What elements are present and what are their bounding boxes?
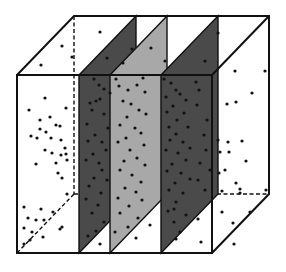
data-point bbox=[30, 230, 33, 233]
data-point bbox=[126, 88, 129, 91]
data-point bbox=[232, 242, 235, 245]
data-point bbox=[173, 181, 176, 184]
data-point bbox=[144, 112, 147, 115]
data-point bbox=[264, 188, 267, 191]
data-point bbox=[118, 168, 121, 171]
data-point bbox=[48, 115, 51, 118]
data-point bbox=[130, 173, 133, 176]
data-point bbox=[39, 207, 42, 210]
data-point bbox=[98, 97, 101, 100]
data-point bbox=[124, 136, 127, 139]
data-point bbox=[171, 104, 174, 107]
data-point bbox=[140, 198, 143, 201]
data-point bbox=[178, 230, 181, 233]
data-point bbox=[92, 77, 95, 80]
data-point bbox=[108, 91, 111, 94]
data-point bbox=[102, 112, 105, 115]
data-point bbox=[51, 210, 54, 213]
data-point bbox=[44, 130, 47, 133]
data-point bbox=[28, 238, 31, 241]
data-point bbox=[92, 176, 95, 179]
data-point bbox=[90, 108, 93, 111]
data-point bbox=[58, 124, 61, 127]
data-point bbox=[34, 218, 37, 221]
data-point bbox=[218, 150, 221, 153]
data-point bbox=[42, 218, 45, 221]
data-point bbox=[234, 181, 237, 184]
data-point bbox=[182, 111, 185, 114]
data-point bbox=[22, 242, 25, 245]
data-point bbox=[102, 220, 105, 223]
separating-planes bbox=[79, 16, 218, 253]
data-point bbox=[64, 106, 67, 109]
data-point bbox=[97, 161, 100, 164]
data-point bbox=[168, 138, 171, 141]
data-point bbox=[104, 148, 107, 151]
data-point bbox=[196, 217, 199, 220]
data-point bbox=[65, 158, 68, 161]
data-point bbox=[220, 189, 223, 192]
data-point bbox=[134, 190, 137, 193]
data-point bbox=[65, 192, 68, 195]
data-point bbox=[127, 204, 130, 207]
data-point bbox=[34, 162, 37, 165]
data-point bbox=[116, 140, 119, 143]
data-point bbox=[105, 56, 108, 59]
data-point bbox=[98, 30, 101, 33]
data-point bbox=[174, 132, 177, 135]
data-point bbox=[116, 196, 119, 199]
data-point bbox=[202, 133, 205, 136]
data-point bbox=[118, 123, 121, 126]
data-point bbox=[164, 95, 167, 98]
data-point bbox=[244, 159, 247, 162]
data-point bbox=[43, 96, 46, 99]
data-point bbox=[60, 176, 63, 179]
data-point bbox=[175, 118, 178, 121]
data-point bbox=[106, 126, 109, 129]
data-point bbox=[121, 61, 124, 64]
data-point bbox=[64, 152, 67, 155]
data-point bbox=[167, 188, 170, 191]
data-point bbox=[176, 151, 179, 154]
data-point bbox=[148, 223, 151, 226]
data-point bbox=[226, 140, 229, 143]
data-point bbox=[139, 131, 142, 134]
data-point bbox=[194, 80, 197, 83]
data-point bbox=[63, 146, 66, 149]
data-point bbox=[59, 138, 62, 141]
data-point bbox=[188, 146, 191, 149]
data-point bbox=[143, 163, 146, 166]
data-point bbox=[238, 187, 241, 190]
data-point bbox=[96, 203, 99, 206]
data-point bbox=[195, 103, 198, 106]
data-point bbox=[94, 99, 97, 102]
data-point bbox=[105, 178, 108, 181]
data-point bbox=[135, 156, 138, 159]
data-point bbox=[231, 221, 234, 224]
data-point bbox=[84, 158, 87, 161]
data-point bbox=[129, 102, 132, 105]
data-point bbox=[199, 240, 202, 243]
data-point bbox=[126, 225, 129, 228]
data-point bbox=[59, 153, 62, 156]
data-point bbox=[174, 237, 177, 240]
figure-canvas bbox=[0, 0, 286, 272]
data-point bbox=[123, 186, 126, 189]
data-point bbox=[223, 168, 226, 171]
data-point bbox=[125, 115, 128, 118]
data-point bbox=[86, 139, 89, 142]
data-point bbox=[181, 140, 184, 143]
data-point bbox=[88, 101, 91, 104]
data-point bbox=[22, 205, 25, 208]
data-point bbox=[238, 191, 241, 194]
data-point bbox=[84, 197, 87, 200]
data-point bbox=[135, 83, 138, 86]
data-point bbox=[225, 102, 228, 105]
data-point bbox=[121, 99, 124, 102]
data-point bbox=[216, 31, 219, 34]
data-point bbox=[99, 191, 102, 194]
cube-with-planes-diagram bbox=[0, 0, 286, 272]
data-point bbox=[27, 108, 30, 111]
data-point bbox=[29, 134, 32, 137]
data-point bbox=[164, 148, 167, 151]
